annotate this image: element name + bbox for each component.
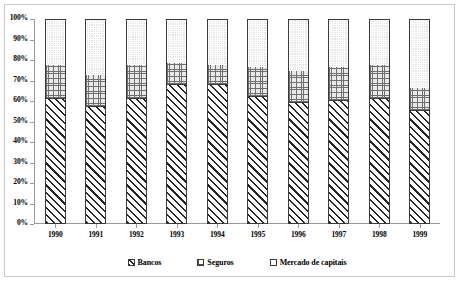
stacked-bar[interactable] bbox=[328, 19, 349, 224]
y-tick-mark bbox=[30, 122, 34, 123]
x-tick-label: 1999 bbox=[400, 230, 441, 239]
bar-segment-bancos bbox=[410, 110, 429, 223]
legend-swatch-icon bbox=[197, 259, 204, 266]
legend-item-bancos[interactable]: Bancos bbox=[128, 258, 162, 267]
bar-segment-seguros bbox=[127, 63, 146, 98]
y-tick-mark bbox=[30, 60, 34, 61]
y-tick-mark bbox=[30, 183, 34, 184]
bar-slot bbox=[35, 19, 76, 224]
y-tick-label: 90% bbox=[13, 34, 28, 43]
bar-segment-bancos bbox=[86, 106, 105, 223]
x-tick-mark bbox=[55, 224, 56, 228]
x-tick-mark bbox=[379, 224, 380, 228]
bar-segment-mercado-de-capitais bbox=[127, 20, 146, 65]
y-tick-label: 60% bbox=[13, 95, 28, 104]
legend-item-seguros[interactable]: Seguros bbox=[197, 258, 233, 267]
y-tick-mark bbox=[30, 101, 34, 102]
x-tick-mark bbox=[136, 224, 137, 228]
bar-segment-seguros bbox=[329, 65, 348, 100]
bar-slot bbox=[238, 19, 279, 224]
stacked-bar[interactable] bbox=[45, 19, 66, 224]
bar-segment-seguros bbox=[208, 63, 227, 84]
x-tick-mark bbox=[258, 224, 259, 228]
bar-segment-bancos bbox=[167, 84, 186, 223]
x-tick-label: 1997 bbox=[319, 230, 360, 239]
stacked-bar[interactable] bbox=[207, 19, 228, 224]
stacked-bar[interactable] bbox=[409, 19, 430, 224]
x-axis-labels: 1990199119921993199419951996199719981999 bbox=[35, 230, 440, 244]
y-tick-label: 100% bbox=[10, 13, 28, 22]
chart-legend: BancosSegurosMercado de capitais bbox=[34, 254, 440, 270]
x-tick-mark bbox=[217, 224, 218, 228]
x-tick-label: 1990 bbox=[35, 230, 76, 239]
y-tick-label: 40% bbox=[13, 136, 28, 145]
y-tick-label: 50% bbox=[13, 116, 28, 125]
y-tick-label: 10% bbox=[13, 198, 28, 207]
x-tick-mark bbox=[96, 224, 97, 228]
bar-slot bbox=[278, 19, 319, 224]
legend-swatch-icon bbox=[128, 259, 135, 266]
y-tick-label: 30% bbox=[13, 157, 28, 166]
bar-segment-mercado-de-capitais bbox=[289, 20, 308, 71]
bar-slot bbox=[400, 19, 441, 224]
stacked-bar[interactable] bbox=[126, 19, 147, 224]
bar-segment-seguros bbox=[248, 65, 267, 96]
stacked-bar[interactable] bbox=[247, 19, 268, 224]
bar-segment-bancos bbox=[370, 98, 389, 223]
bar-segment-mercado-de-capitais bbox=[46, 20, 65, 65]
x-tick-label: 1991 bbox=[76, 230, 117, 239]
y-tick-label: 20% bbox=[13, 177, 28, 186]
bar-slot bbox=[319, 19, 360, 224]
x-tick-mark bbox=[339, 224, 340, 228]
plot-area: 0%10%20%30%40%50%60%70%80%90%100% bbox=[34, 19, 440, 224]
bar-segment-bancos bbox=[208, 84, 227, 223]
bar-segment-bancos bbox=[46, 98, 65, 223]
bar-segment-seguros bbox=[289, 69, 308, 102]
x-tick-label: 1992 bbox=[116, 230, 157, 239]
bar-segment-mercado-de-capitais bbox=[208, 20, 227, 65]
x-tick-mark bbox=[420, 224, 421, 228]
bar-segment-mercado-de-capitais bbox=[410, 20, 429, 88]
bar-segment-seguros bbox=[410, 86, 429, 111]
bar-segment-seguros bbox=[46, 63, 65, 98]
x-tick-label: 1995 bbox=[238, 230, 279, 239]
bar-segment-bancos bbox=[248, 96, 267, 223]
bar-segment-mercado-de-capitais bbox=[248, 20, 267, 67]
legend-label: Bancos bbox=[138, 258, 162, 267]
y-tick-mark bbox=[30, 224, 34, 225]
bar-segment-bancos bbox=[127, 98, 146, 223]
y-tick-label: 80% bbox=[13, 54, 28, 63]
bar-slot bbox=[116, 19, 157, 224]
legend-swatch-icon bbox=[270, 259, 277, 266]
legend-item-mercado-de-capitais[interactable]: Mercado de capitais bbox=[270, 258, 347, 267]
bar-slot bbox=[76, 19, 117, 224]
bar-slot bbox=[359, 19, 400, 224]
x-tick-label: 1998 bbox=[359, 230, 400, 239]
x-tick-label: 1994 bbox=[197, 230, 238, 239]
y-tick-mark bbox=[30, 19, 34, 20]
y-tick-mark bbox=[30, 142, 34, 143]
stacked-bar[interactable] bbox=[85, 19, 106, 224]
y-tick-mark bbox=[30, 81, 34, 82]
y-tick-mark bbox=[30, 163, 34, 164]
bar-slot bbox=[197, 19, 238, 224]
stacked-bar[interactable] bbox=[369, 19, 390, 224]
stacked-bar[interactable] bbox=[288, 19, 309, 224]
bar-segment-mercado-de-capitais bbox=[370, 20, 389, 65]
stacked-bar[interactable] bbox=[166, 19, 187, 224]
chart-figure: 0%10%20%30%40%50%60%70%80%90%100% 199019… bbox=[0, 0, 461, 283]
bar-segment-seguros bbox=[167, 61, 186, 84]
bar-segment-mercado-de-capitais bbox=[329, 20, 348, 67]
bar-group bbox=[35, 19, 440, 224]
bar-segment-mercado-de-capitais bbox=[167, 20, 186, 63]
bar-segment-bancos bbox=[329, 100, 348, 223]
y-tick-mark bbox=[30, 40, 34, 41]
legend-label: Seguros bbox=[207, 258, 233, 267]
x-tick-label: 1993 bbox=[157, 230, 198, 239]
bar-segment-bancos bbox=[289, 102, 308, 223]
y-tick-label: 0% bbox=[17, 218, 28, 227]
y-tick-mark bbox=[30, 204, 34, 205]
x-tick-mark bbox=[177, 224, 178, 228]
legend-label: Mercado de capitais bbox=[280, 258, 347, 267]
bar-slot bbox=[157, 19, 198, 224]
